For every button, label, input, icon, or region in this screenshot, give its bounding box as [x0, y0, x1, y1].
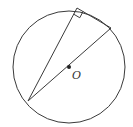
diagram-svg: O — [0, 0, 133, 127]
center-label: O — [72, 69, 81, 82]
diameter-line — [28, 28, 111, 101]
geometry-diagram: O — [0, 0, 133, 127]
center-point — [67, 65, 71, 69]
chord-right — [77, 8, 111, 28]
